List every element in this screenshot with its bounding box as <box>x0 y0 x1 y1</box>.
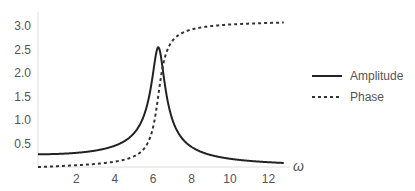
y-tick-label: 1.5 <box>14 90 31 104</box>
legend-item-phase: Phase <box>312 90 384 104</box>
resonance-chart: 0.51.01.52.02.53.0 24681012 ω Amplitude … <box>0 0 415 191</box>
amplitude-curve <box>38 47 284 163</box>
x-tick-label: 2 <box>73 172 80 186</box>
phase-curve <box>38 23 284 167</box>
y-tick-labels: 0.51.01.52.02.53.0 <box>14 19 31 151</box>
x-tick-labels: 24681012 <box>73 172 275 186</box>
legend-item-amplitude: Amplitude <box>312 69 404 83</box>
legend-label-amplitude: Amplitude <box>350 69 404 83</box>
plot-series <box>38 23 284 167</box>
legend-label-phase: Phase <box>350 90 384 104</box>
y-tick-label: 0.5 <box>14 137 31 151</box>
axes <box>38 12 290 167</box>
x-tick-label: 6 <box>150 172 157 186</box>
x-tick-label: 8 <box>188 172 195 186</box>
y-tick-label: 3.0 <box>14 19 31 33</box>
x-tick-label: 12 <box>262 172 276 186</box>
x-tick-label: 4 <box>111 172 118 186</box>
x-tick-label: 10 <box>223 172 237 186</box>
x-axis-label: ω <box>293 158 304 174</box>
y-tick-label: 2.0 <box>14 66 31 80</box>
legend: Amplitude Phase <box>312 69 404 104</box>
y-tick-label: 1.0 <box>14 113 31 127</box>
y-tick-label: 2.5 <box>14 43 31 57</box>
